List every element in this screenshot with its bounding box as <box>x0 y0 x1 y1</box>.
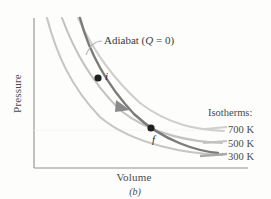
pv-diagram-svg <box>0 0 271 199</box>
state-point-i-label: i <box>105 71 108 82</box>
y-axis-label: Pressure <box>12 59 23 129</box>
legend-item-500k: 500 K <box>228 139 254 150</box>
legend-item-700k: 700 K <box>228 125 254 136</box>
adiabat-annotation: Adiabat (Q = 0) <box>104 35 174 46</box>
thermodynamics-pv-figure: Pressure Volume (b) Adiabat (Q = 0) i f … <box>0 0 271 199</box>
figure-caption: (b) <box>110 187 160 197</box>
state-point-f-label: f <box>152 134 155 145</box>
x-axis-label: Volume <box>94 172 174 183</box>
adiabat-label-prefix: Adiabat ( <box>104 34 145 46</box>
adiabat-label-suffix: = 0) <box>153 34 174 46</box>
state-point-f-marker <box>147 124 154 131</box>
legend-item-300k: 300 K <box>228 152 254 163</box>
legend-title: Isotherms: <box>208 108 252 119</box>
state-point-i-marker <box>94 74 101 81</box>
adiabat-label-q-symbol: Q <box>145 34 153 46</box>
